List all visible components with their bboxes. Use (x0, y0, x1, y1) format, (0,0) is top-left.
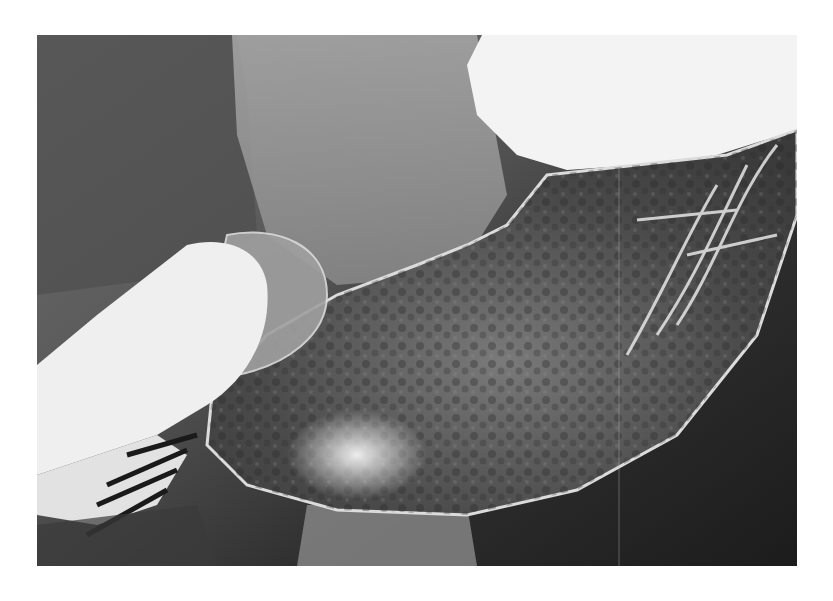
xray-illustration (37, 35, 797, 566)
antral-barium-glow (287, 410, 427, 500)
xray-image (37, 35, 797, 566)
